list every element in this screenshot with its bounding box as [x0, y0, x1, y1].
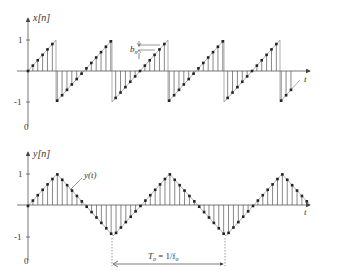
bottom-x-label: t [304, 207, 307, 217]
svg-text:bx: bx [130, 44, 138, 55]
bottom-origin: 0 [24, 256, 29, 266]
bottom-y-label: y[n] [32, 148, 50, 159]
bottom-tick-neg: -1 [14, 232, 22, 242]
bottom-tick-pos: 1 [18, 169, 23, 179]
curve-leader [70, 178, 82, 190]
curve-label: y(t) [83, 170, 97, 180]
top-y-label: x[n] [32, 12, 50, 23]
top-tick-neg: -1 [14, 97, 22, 107]
bottom-samples [27, 173, 310, 236]
top-origin: 0 [24, 122, 29, 132]
bottom-plot: y[n] 1 -1 0 t y(t) To = 1/fo [14, 148, 310, 267]
top-x-label: t [304, 74, 307, 84]
period-label: To = 1/fo [148, 251, 179, 262]
signal-diagram: x[n] 1 -1 0 t bx y[n] 1 -1 0 t y(t) [0, 0, 342, 280]
bx-annotation: bx [130, 41, 160, 59]
top-tick-pos: 1 [18, 35, 23, 45]
top-plot: x[n] 1 -1 0 t bx [14, 12, 310, 132]
